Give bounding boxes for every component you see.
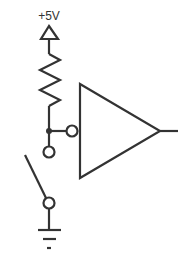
inverting-bubble-icon: [67, 126, 78, 137]
resistor-icon: [40, 54, 60, 106]
power-supply-icon: [41, 26, 58, 39]
switch-arm-icon: [25, 155, 46, 198]
inverter-buffer-icon: [80, 84, 160, 178]
supply-voltage-label: +5V: [38, 9, 60, 23]
ground-icon: [38, 230, 61, 248]
switch-lower-contact-icon: [44, 198, 55, 209]
switch-upper-contact-icon: [44, 147, 55, 158]
circuit-diagram: +5V: [0, 0, 188, 264]
